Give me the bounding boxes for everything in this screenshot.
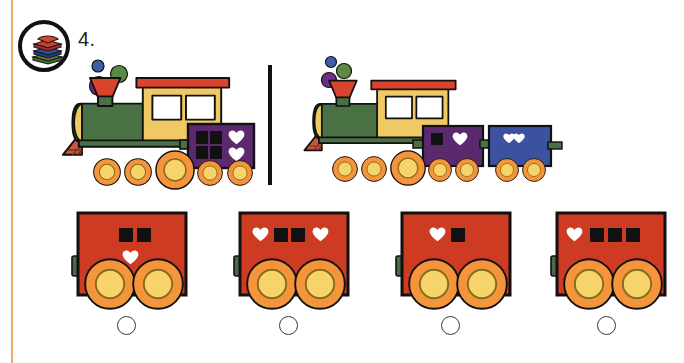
option-d-wagon[interactable] bbox=[551, 213, 665, 309]
option-b-wagon[interactable] bbox=[234, 213, 348, 309]
train-right bbox=[304, 57, 562, 186]
option-c-wagon[interactable] bbox=[396, 213, 510, 309]
question-number: 4. bbox=[78, 28, 96, 51]
coupling-right-2 bbox=[480, 140, 494, 148]
smoke-puffs-right bbox=[322, 57, 352, 88]
illustration-canvas bbox=[0, 0, 684, 363]
coupling-left bbox=[180, 140, 198, 149]
wagon-right-purple bbox=[423, 126, 483, 166]
wheels-right bbox=[333, 151, 546, 185]
coupling-right-1 bbox=[413, 140, 429, 148]
book-stack-icon bbox=[18, 20, 70, 72]
wagon-right-blue bbox=[489, 126, 551, 166]
train-left bbox=[63, 60, 254, 189]
wagon-left-purple bbox=[188, 124, 254, 168]
option-c-radio[interactable] bbox=[441, 316, 460, 335]
option-a-wagon[interactable] bbox=[72, 213, 186, 309]
engine-left bbox=[63, 78, 229, 155]
wheels-left bbox=[94, 151, 253, 189]
smoke-puffs-left bbox=[90, 60, 128, 96]
engine-right bbox=[304, 81, 455, 151]
option-d-radio[interactable] bbox=[597, 316, 616, 335]
coupling-right-3 bbox=[548, 142, 562, 149]
option-a-radio[interactable] bbox=[117, 316, 136, 335]
train-divider bbox=[268, 65, 272, 185]
left-margin-rule bbox=[11, 0, 13, 363]
option-b-radio[interactable] bbox=[279, 316, 298, 335]
worksheet-page: 4. bbox=[0, 0, 684, 363]
